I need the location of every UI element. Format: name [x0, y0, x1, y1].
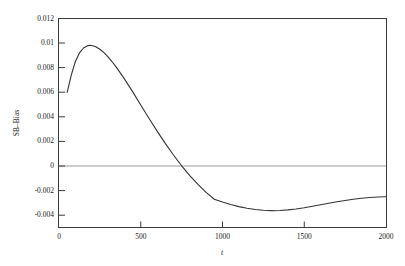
plot-canvas	[0, 0, 405, 266]
y-axis-title: SB–Bias	[13, 110, 21, 136]
ytick-label-neg0.002: -0.002	[10, 187, 54, 195]
ytick-label-0.008: 0.008	[10, 64, 54, 72]
xtick-label-2000: 2000	[379, 233, 394, 241]
data-series-line	[67, 45, 386, 210]
ytick-label-neg0.004: -0.004	[10, 211, 54, 219]
ytick-label-0.002: 0.002	[10, 138, 54, 146]
xtick-label-0: 0	[57, 233, 61, 241]
x-tick-marks	[141, 222, 305, 228]
ytick-label-0.006: 0.006	[10, 88, 54, 96]
ytick-label-0.012: 0.012	[10, 15, 54, 23]
plot-frame	[59, 19, 387, 228]
x-axis-title: t	[221, 249, 223, 257]
y-tick-marks	[59, 19, 65, 216]
xtick-label-1500: 1500	[297, 233, 312, 241]
ytick-label-0: 0	[10, 162, 54, 170]
xtick-label-500: 500	[135, 233, 146, 241]
xtick-label-1000: 1000	[215, 233, 230, 241]
ytick-label-0.01: 0.01	[10, 39, 54, 47]
chart-figure: 0.012 0.01 0.008 0.006 0.004 0.002 0 -0.…	[0, 0, 405, 266]
